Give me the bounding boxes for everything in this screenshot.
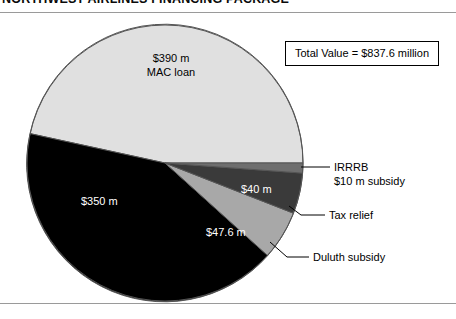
label-irrrb-value: $10 m subsidy [334, 175, 405, 187]
label-duluth-value: $47.6 m [206, 226, 246, 240]
label-mac-loan-value: $390 m [153, 52, 190, 64]
label-duluth-name: Duluth subsidy [313, 251, 385, 265]
label-state-loan-value: $350 m [81, 195, 118, 209]
title-divider [0, 12, 456, 13]
total-value-box: Total Value = $837.6 million [285, 41, 439, 66]
chart-page: NORTHWEST AIRLINES FINANCING PACKAGE [0, 0, 456, 319]
label-mac-loan: $390 m MAC loan [112, 52, 230, 79]
page-title: NORTHWEST AIRLINES FINANCING PACKAGE [2, 0, 289, 6]
title-bar: NORTHWEST AIRLINES FINANCING PACKAGE [0, 0, 456, 12]
label-tax-relief-name: Tax relief [329, 209, 373, 223]
label-irrrb-name: IRRRB [334, 161, 368, 173]
label-tax-relief-value: $40 m [241, 183, 272, 197]
bottom-divider [0, 303, 456, 304]
label-mac-loan-name: MAC loan [147, 66, 195, 78]
label-irrrb: IRRRB $10 m subsidy [334, 161, 405, 188]
